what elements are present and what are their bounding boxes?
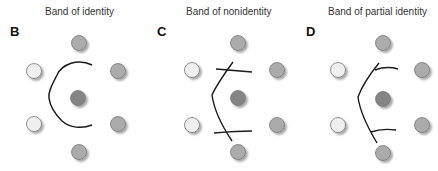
- well-b-right-top-icon: [111, 64, 126, 79]
- well-c-right-top-icon: [270, 63, 285, 78]
- well-c-right-bottom-icon: [270, 118, 285, 133]
- well-c-bottom-icon: [231, 145, 246, 160]
- well-d-left-top-icon: [331, 63, 346, 78]
- well-b-center-icon: [71, 91, 86, 106]
- immunodiffusion-diagram: [0, 0, 438, 171]
- well-d-right-bottom-icon: [415, 118, 430, 133]
- well-b-left-bottom-icon: [27, 117, 42, 132]
- well-d-right-top-icon: [415, 63, 430, 78]
- well-d-left-bottom-icon: [331, 118, 346, 133]
- well-b-right-bottom-icon: [111, 117, 126, 132]
- well-d-bottom-icon: [376, 146, 391, 161]
- well-b-left-top-icon: [27, 64, 42, 79]
- precipitin-band-identity: [49, 62, 92, 127]
- wells-group: [27, 36, 430, 161]
- well-c-center-icon: [231, 91, 246, 106]
- well-b-bottom-icon: [72, 145, 87, 160]
- well-b-top-icon: [72, 36, 87, 51]
- well-d-center-icon: [376, 92, 391, 107]
- well-c-left-top-icon: [185, 63, 200, 78]
- well-c-top-icon: [231, 36, 246, 51]
- well-c-left-bottom-icon: [185, 118, 200, 133]
- well-d-top-icon: [376, 36, 391, 51]
